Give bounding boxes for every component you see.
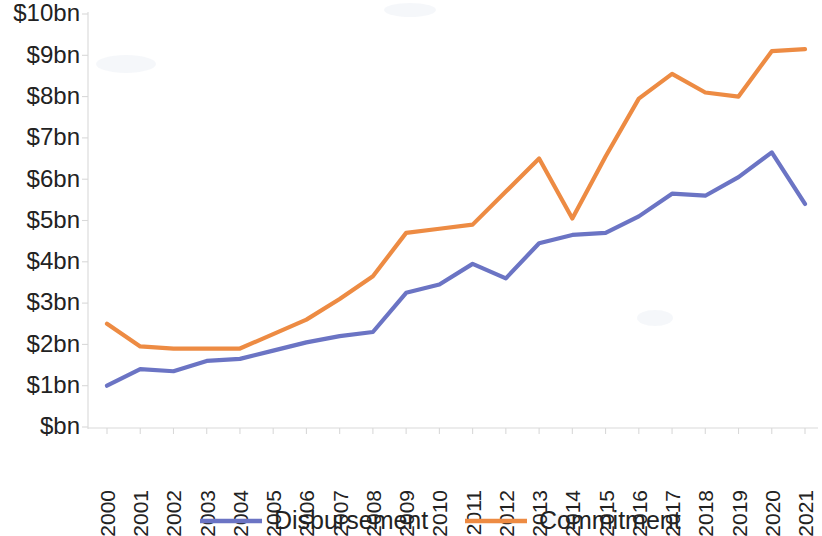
y-axis-tick-labels: $bn$1bn$2bn$3bn$4bn$5bn$6bn$7bn$8bn$9bn$…	[13, 0, 80, 439]
x-axis-tick-label: 2018	[694, 490, 717, 536]
x-axis-tick-label: 2012	[495, 490, 518, 536]
x-axis-tick-label: 2002	[162, 490, 185, 536]
y-axis-tick-label: $2bn	[27, 330, 80, 357]
y-axis-tick-label: $bn	[40, 412, 80, 439]
x-axis-tick-label: 2021	[794, 490, 817, 536]
y-axis-tick-label: $5bn	[27, 206, 80, 233]
x-axis-tick-label: 2019	[728, 490, 751, 536]
y-axis-tick-label: $10bn	[13, 0, 80, 26]
x-axis-tick-label: 2003	[196, 490, 219, 536]
x-axis-tick-label: 2020	[761, 490, 784, 536]
line-chart: $bn$1bn$2bn$3bn$4bn$5bn$6bn$7bn$8bn$9bn$…	[0, 0, 822, 536]
y-axis-tick-label: $3bn	[27, 288, 80, 315]
y-axis-tick-marks	[82, 14, 88, 427]
y-axis-tick-label: $7bn	[27, 123, 80, 150]
series-line-disbursement	[107, 152, 805, 385]
x-axis-tick-label: 2011	[462, 490, 485, 535]
x-axis-tick-label: 2004	[229, 490, 252, 536]
x-axis-tick-label: 2010	[428, 490, 451, 536]
legend-label-commitment: Commitment	[539, 506, 681, 534]
y-axis-tick-label: $4bn	[27, 247, 80, 274]
series-line-commitment	[107, 49, 805, 348]
chart-container: $bn$1bn$2bn$3bn$4bn$5bn$6bn$7bn$8bn$9bn$…	[0, 0, 822, 536]
y-axis-tick-label: $8bn	[27, 82, 80, 109]
x-axis-tick-label: 2001	[129, 490, 152, 536]
series-group	[107, 49, 805, 386]
y-axis-tick-label: $1bn	[27, 371, 80, 398]
x-axis-tick-label: 2000	[96, 490, 119, 536]
legend-label-disbursement: Disbursement	[274, 506, 428, 534]
y-axis-tick-label: $6bn	[27, 165, 80, 192]
y-axis-tick-label: $9bn	[27, 41, 80, 68]
